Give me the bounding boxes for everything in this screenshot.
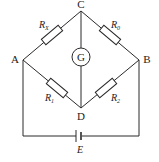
node-c-label: C xyxy=(77,0,84,10)
resistor-r2-label: R2 xyxy=(110,92,120,104)
node-b-label: B xyxy=(143,53,150,65)
node-d-label: D xyxy=(77,110,85,122)
galvanometer-label: G xyxy=(77,51,85,63)
resistor-r0-label: R0 xyxy=(110,19,120,31)
battery-label: E xyxy=(76,144,83,155)
wheatstone-bridge-diagram: G E C A B D RX R0 R1 R2 xyxy=(0,0,159,162)
resistor-rx-label: RX xyxy=(38,19,49,31)
resistor-r1-label: R1 xyxy=(44,92,54,104)
node-a-label: A xyxy=(11,53,19,65)
